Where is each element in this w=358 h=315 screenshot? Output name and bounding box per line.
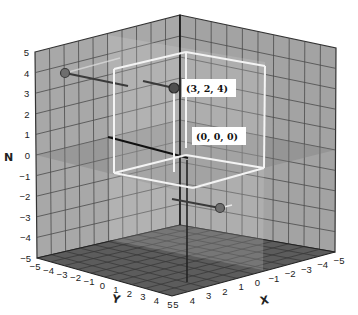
svg-text:1: 1: [25, 129, 30, 140]
svg-text:−1: −1: [19, 171, 30, 182]
svg-text:3: 3: [24, 88, 29, 99]
svg-text:0: 0: [100, 280, 105, 291]
z-axis-label: N: [4, 151, 13, 164]
svg-text:−3: −3: [57, 269, 68, 280]
x-axis-label: X: [259, 293, 271, 308]
point-left-projection: [61, 69, 70, 78]
3d-chart: (3, 2, 4) (0, 0, 0) 543210−1−2−3−4−5 N −…: [0, 0, 358, 315]
svg-text:2: 2: [222, 286, 227, 297]
svg-text:−4: −4: [20, 232, 31, 243]
svg-text:5: 5: [167, 299, 172, 310]
svg-text:(0, 0, 0): (0, 0, 0): [196, 131, 238, 143]
z-ticks: 543210−1−2−3−4−5: [19, 47, 31, 264]
svg-text:−3: −3: [20, 212, 31, 223]
svg-text:4: 4: [24, 68, 29, 79]
label-point-main: (3, 2, 4): [182, 79, 236, 97]
svg-text:−2: −2: [285, 268, 296, 279]
svg-text:−4: −4: [43, 265, 54, 276]
svg-text:−2: −2: [70, 272, 81, 283]
svg-text:5: 5: [173, 299, 178, 310]
svg-text:−2: −2: [20, 191, 31, 202]
svg-text:3: 3: [140, 291, 145, 302]
svg-text:−5: −5: [30, 261, 41, 272]
svg-text:2: 2: [24, 109, 29, 120]
svg-text:4: 4: [190, 295, 195, 306]
svg-text:−1: −1: [84, 276, 95, 287]
point-3-2-4: [169, 83, 179, 93]
svg-text:0: 0: [255, 277, 260, 288]
svg-text:−5: −5: [334, 255, 345, 266]
label-point-origin: (0, 0, 0): [192, 127, 246, 145]
svg-text:5: 5: [24, 47, 29, 58]
svg-text:3: 3: [206, 290, 211, 301]
svg-text:−1: −1: [268, 273, 279, 284]
svg-text:0: 0: [25, 150, 30, 161]
svg-text:2: 2: [127, 288, 132, 299]
y-axis-label: Y: [110, 292, 122, 307]
point-floor-projection: [216, 204, 225, 213]
svg-text:1: 1: [239, 281, 244, 292]
svg-text:(3, 2, 4): (3, 2, 4): [186, 83, 228, 95]
svg-text:−3: −3: [301, 264, 312, 275]
svg-text:4: 4: [154, 295, 159, 306]
svg-text:−4: −4: [317, 259, 328, 270]
